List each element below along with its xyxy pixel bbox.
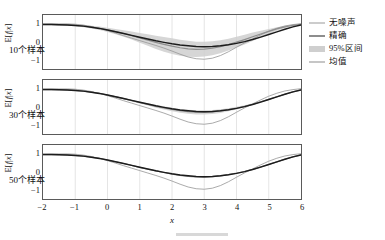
y-tick-label: −1 [26,56,40,65]
chart-legend: 无噪声精确95%区间均值 [309,16,385,68]
x-tick-label: −1 [70,202,79,212]
legend-swatch-mean [309,57,325,67]
y-tick-label: −1 [26,186,40,195]
legend-label: 无噪声 [329,18,356,27]
legend-swatch-exact [309,31,325,41]
y-tick-label: 1 [26,19,40,28]
legend-label: 95%区间 [329,44,363,53]
legend-label: 精确 [329,31,347,40]
legend-item: 95%区间 [309,42,385,55]
panel-plot-area [43,145,301,199]
y-tick-label: 1 [26,84,40,93]
plot-panel-50-samples [42,144,302,200]
x-tick-label: 6 [300,202,304,212]
x-tick-label: 4 [235,202,239,212]
page-artifact [176,233,228,236]
y-axis-ticks-panel-1: 10−1 [22,79,40,135]
legend-item: 精确 [309,29,385,42]
legend-swatch-interval [309,44,325,54]
panel-label-50-samples: 50个样本 [9,173,45,186]
x-tick-label: 2 [170,202,174,212]
panel-label-30-samples: 30个样本 [9,108,45,121]
legend-label: 均值 [329,57,347,66]
legend-swatch-noiseless [309,18,325,28]
plot-panel-10-samples [42,14,302,70]
x-tick-label: 0 [105,202,109,212]
legend-item: 均值 [309,55,385,68]
legend-item: 无噪声 [309,16,385,29]
y-axis-ticks-panel-0: 10−1 [22,14,40,70]
x-axis-tick-labels: −2−10123456 [42,202,302,214]
x-axis-label: x [42,215,302,225]
y-tick-label: 1 [26,149,40,158]
x-tick-label: 3 [202,202,206,212]
x-tick-label: −2 [37,202,46,212]
plot-panel-30-samples [42,79,302,135]
panel-plot-area [43,15,301,69]
panel-plot-area [43,80,301,134]
x-tick-label: 1 [137,202,141,212]
panel-label-10-samples: 10个样本 [9,43,45,56]
y-tick-label: −1 [26,121,40,130]
y-axis-ticks-panel-2: 10−1 [22,144,40,200]
figure-canvas: 10−1 E[f|x] 10个样本 10−1 E[f|x] 30个样本 10−1… [0,0,385,240]
x-tick-label: 5 [267,202,271,212]
